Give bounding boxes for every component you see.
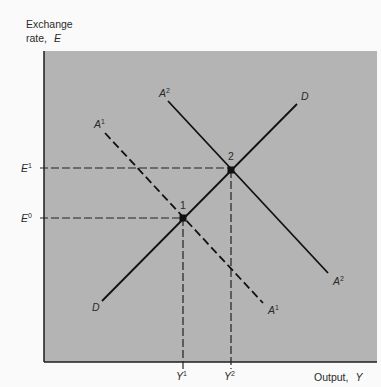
point-2-label: 2 xyxy=(228,150,234,162)
x-axis-label: Output, Y xyxy=(314,367,363,384)
plot-background xyxy=(44,51,377,362)
y2-tick-label: Y2 xyxy=(224,370,235,382)
dd-bottom-label: D xyxy=(92,301,100,313)
point-1-label: 1 xyxy=(180,199,186,211)
e1-tick-label: E1 xyxy=(21,162,32,174)
dd-aa-diagram: 1 2 Exchange rate, E Output, Y E1 E0 Y1 … xyxy=(0,0,381,387)
dd-top-label: D xyxy=(301,90,309,102)
equilibrium-point-1 xyxy=(180,215,187,222)
y-axis-label-line2: rate, E xyxy=(26,28,62,45)
equilibrium-point-2 xyxy=(228,167,235,174)
e0-tick-label: E0 xyxy=(21,212,32,224)
y1-tick-label: Y1 xyxy=(176,370,187,382)
